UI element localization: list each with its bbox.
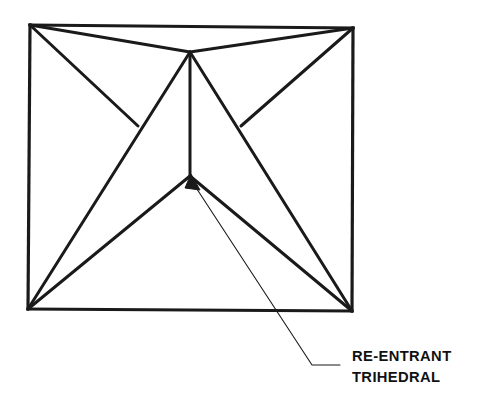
edge-square-top [30,25,353,28]
edge-square-right [352,28,353,311]
edge-reentrant-to-bottom-right [190,176,352,311]
leader-line [191,180,340,365]
interior-edges [28,25,353,311]
edge-square-bottom [28,309,352,311]
edge-apex-to-bottom-left [28,52,190,309]
annotation-label-line1: RE-ENTRANT [352,346,452,365]
edge-square-left [28,25,30,309]
figure-canvas: RE-ENTRANT TRIHEDRAL [0,0,500,415]
edge-reentrant-to-bottom-left [28,176,190,309]
edge-apex-to-bottom-right [190,52,352,311]
leader-polyline [191,180,340,365]
annotation-label-line2: TRIHEDRAL [352,367,440,386]
